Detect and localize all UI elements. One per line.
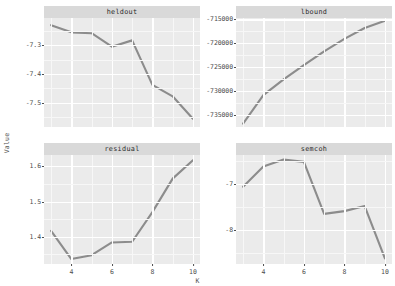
facet-panel-lbound: -715000-720000-725000-730000-735000 lbou… [204,6,392,141]
gridline-major-x [193,155,194,264]
x-tick-label: 8 [150,268,154,276]
y-tick-label: -7.5 [26,99,41,107]
gridline-major-x [304,18,305,127]
plot-area-residual [44,155,200,264]
gridline-major-x [385,155,386,264]
strip-text: residual [104,145,139,153]
gridline-minor-y [236,207,392,208]
x-axis-residual: 46810 [44,264,200,278]
strip-text: lbound [301,8,327,16]
gridline-major-y [236,91,392,92]
plot-area-lbound [236,18,392,127]
gridline-major-y [44,166,200,167]
strip-label-heldout: heldout [44,6,200,18]
gridline-major-x [71,18,72,127]
gridline-major-y [44,202,200,203]
gridline-minor-x [51,155,52,264]
chart-root: Value -7.3-7.4-7.5 heldout 46810 -715000… [0,0,395,286]
gridline-major-y [44,45,200,46]
gridline-minor-y [236,161,392,162]
gridline-major-x [112,18,113,127]
gridline-minor-y [236,31,392,32]
y-tick-label: 1.6 [30,162,41,170]
gridline-major-x [112,155,113,264]
gridline-major-x [152,155,153,264]
y-tick-label: -7.4 [26,70,41,78]
gridline-major-y [236,184,392,185]
gridline-minor-x [243,18,244,127]
gridline-major-x [263,18,264,127]
gridline-minor-y [236,253,392,254]
strip-text: semcoh [301,145,327,153]
gridline-major-x [71,155,72,264]
gridline-minor-x [173,155,174,264]
x-axis-title: K [0,277,395,285]
y-tick-label: -735000 [206,111,233,119]
y-axis-semcoh: -7-8 [204,155,236,264]
y-tick-label: 1.5 [30,198,41,206]
gridline-minor-y [44,31,200,32]
gridline-major-y [236,67,392,68]
gridline-minor-x [92,18,93,127]
gridline-major-x [152,18,153,127]
gridline-minor-x [132,155,133,264]
x-tick-label: 4 [261,268,265,276]
x-tick-label: 10 [381,268,389,276]
y-axis-residual: 1.61.51.4 [12,155,44,264]
gridline-major-x [344,155,345,264]
gridline-major-x [193,18,194,127]
gridline-minor-y [44,254,200,255]
series-semcoh [236,155,392,264]
gridline-minor-x [324,155,325,264]
gridline-major-x [385,18,386,127]
strip-label-semcoh: semcoh [236,143,392,155]
strip-text: heldout [107,8,138,16]
series-lbound [236,18,392,127]
gridline-minor-y [236,103,392,104]
gridline-minor-x [132,18,133,127]
gridline-minor-x [51,18,52,127]
x-tick-label: 6 [110,268,114,276]
y-tick-label: -8 [225,226,233,234]
gridline-minor-y [44,88,200,89]
strip-label-residual: residual [44,143,200,155]
gridline-major-y [236,115,392,116]
gridline-minor-x [284,18,285,127]
series-residual [44,155,200,264]
gridline-minor-y [44,219,200,220]
facet-panel-semcoh: -7-8 semcoh 46810 [204,143,392,278]
gridline-minor-x [365,155,366,264]
y-tick-label: -730000 [206,87,233,95]
gridline-minor-x [173,18,174,127]
gridline-minor-y [236,55,392,56]
gridline-minor-x [243,155,244,264]
gridline-minor-y [44,184,200,185]
gridline-major-y [44,237,200,238]
y-axis-heldout: -7.3-7.4-7.5 [12,18,44,127]
y-tick-label: -7.3 [26,41,41,49]
x-tick-label: 8 [342,268,346,276]
y-tick-label: -720000 [206,39,233,47]
facet-panel-heldout: -7.3-7.4-7.5 heldout 46810 [12,6,200,141]
plot-area-heldout [44,18,200,127]
gridline-major-y [236,19,392,20]
gridline-major-x [304,155,305,264]
gridline-major-x [344,18,345,127]
y-tick-label: -7 [225,180,233,188]
x-axis-title-label: K [195,277,199,285]
plot-area-semcoh [236,155,392,264]
x-tick-label: 6 [302,268,306,276]
facet-grid: -7.3-7.4-7.5 heldout 46810 -715000-72000… [12,6,392,278]
series-heldout [44,18,200,127]
facet-panel-residual: 1.61.51.4 residual 46810 [12,143,200,278]
gridline-major-y [236,43,392,44]
gridline-major-y [236,230,392,231]
strip-label-lbound: lbound [236,6,392,18]
x-tick-label: 10 [189,268,197,276]
gridline-minor-y [44,60,200,61]
y-axis-lbound: -715000-720000-725000-730000-735000 [204,18,236,127]
y-tick-label: 1.4 [30,233,41,241]
y-axis-title-label: Value [3,133,11,154]
x-tick-label: 4 [69,268,73,276]
x-axis-semcoh: 46810 [236,264,392,278]
